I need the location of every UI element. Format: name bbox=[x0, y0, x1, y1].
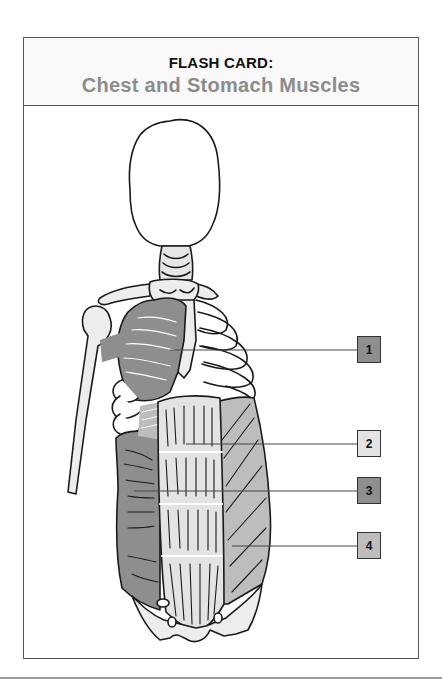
ribcage-right bbox=[196, 300, 255, 408]
label-number: 3 bbox=[366, 484, 373, 498]
label-number: 1 bbox=[366, 343, 373, 357]
label-box-3: 3 bbox=[357, 477, 381, 504]
label-box-1: 1 bbox=[357, 336, 381, 363]
side-wall-muscle bbox=[116, 431, 160, 610]
label-box-2: 2 bbox=[357, 430, 381, 457]
humerus bbox=[68, 306, 111, 494]
skull bbox=[129, 120, 219, 246]
label-box-4: 4 bbox=[357, 532, 381, 559]
clavicle-right bbox=[196, 284, 218, 299]
label-number: 4 bbox=[366, 539, 373, 553]
page-divider bbox=[0, 677, 442, 679]
label-number: 2 bbox=[366, 437, 373, 451]
